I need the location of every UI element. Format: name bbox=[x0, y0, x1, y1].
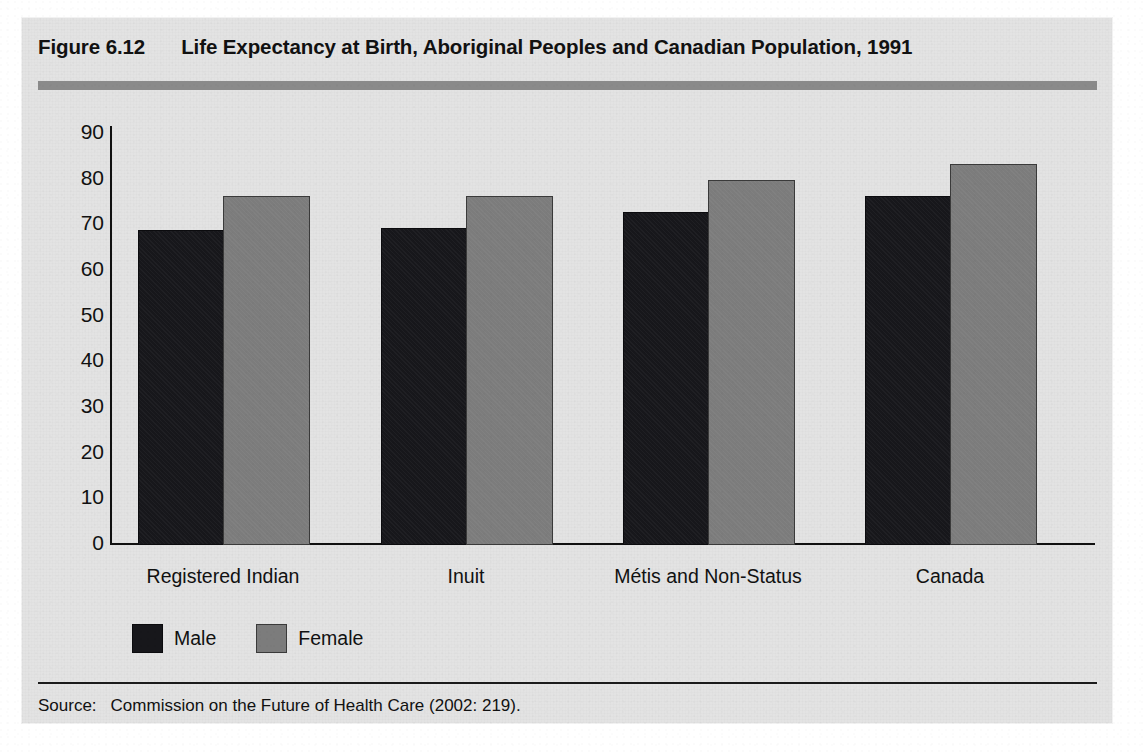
male-swatch-icon bbox=[132, 624, 163, 653]
bar-male-0 bbox=[138, 230, 225, 545]
figure-panel: Figure 6.12 Life Expectancy at Birth, Ab… bbox=[22, 18, 1112, 723]
bar-male-3 bbox=[865, 196, 952, 545]
chart-plot-area: 0102030405060708090 Registered IndianInu… bbox=[22, 18, 1112, 723]
chart-legend: Male Female bbox=[132, 624, 363, 653]
bar-female-2 bbox=[708, 180, 795, 545]
legend-item-male: Male bbox=[132, 624, 216, 653]
bar-male-1 bbox=[381, 228, 468, 545]
legend-item-female: Female bbox=[256, 624, 363, 653]
female-swatch-icon bbox=[256, 624, 287, 653]
bar-female-1 bbox=[466, 196, 553, 545]
bar-series-layer bbox=[22, 18, 1112, 723]
category-label-0: Registered Indian bbox=[147, 565, 300, 588]
category-label-2: Métis and Non-Status bbox=[614, 565, 802, 588]
page-background: Figure 6.12 Life Expectancy at Birth, Ab… bbox=[0, 0, 1144, 754]
bar-female-0 bbox=[223, 196, 310, 545]
legend-label-female: Female bbox=[298, 627, 363, 650]
source-label: Source: bbox=[38, 696, 97, 716]
source-note: Source: Commission on the Future of Heal… bbox=[38, 696, 521, 716]
source-divider bbox=[38, 682, 1097, 684]
bar-male-2 bbox=[623, 212, 710, 545]
category-label-3: Canada bbox=[916, 565, 984, 588]
source-citation: Commission on the Future of Health Care … bbox=[111, 696, 521, 716]
category-label-1: Inuit bbox=[448, 565, 485, 588]
bar-female-3 bbox=[950, 164, 1037, 545]
legend-label-male: Male bbox=[174, 627, 216, 650]
